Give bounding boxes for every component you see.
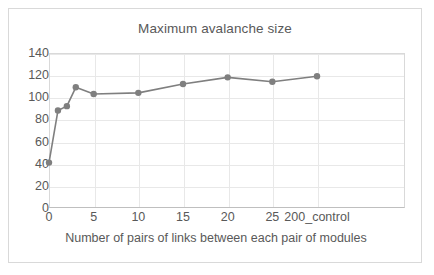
data-point-marker xyxy=(269,79,275,85)
y-axis-tick-label: 40 xyxy=(13,157,49,171)
x-axis-tick-label: 15 xyxy=(176,210,190,224)
y-axis-tick-label: 20 xyxy=(13,179,49,193)
x-axis-tick-label: 20 xyxy=(221,210,235,224)
data-point-marker xyxy=(180,81,186,87)
x-axis-tick-label: 5 xyxy=(90,210,97,224)
data-point-marker xyxy=(55,107,61,113)
series-line-chart xyxy=(49,53,405,208)
y-axis-tick-label: 60 xyxy=(13,135,49,149)
x-axis-tick-label: 10 xyxy=(131,210,145,224)
x-axis-tick-label: 0 xyxy=(46,210,53,224)
data-point-marker xyxy=(73,84,79,90)
data-point-marker xyxy=(64,103,70,109)
y-axis-tick-label: 0 xyxy=(13,201,49,215)
y-axis-tick-label: 100 xyxy=(13,90,49,104)
y-axis-tick-label: 80 xyxy=(13,112,49,126)
y-axis-tick-labels: 020406080100120140 xyxy=(9,53,49,208)
data-point-marker xyxy=(90,91,96,97)
data-point-marker xyxy=(46,159,52,165)
x-axis-tick-labels: 0510152025200_control xyxy=(49,210,405,228)
data-point-marker xyxy=(314,73,320,79)
data-point-marker xyxy=(135,90,141,96)
y-axis-tick-label: 120 xyxy=(13,68,49,82)
x-axis-tick-label: 25 xyxy=(265,210,279,224)
y-axis-tick-label: 140 xyxy=(13,46,49,60)
chart-frame: Maximum avalanche size 02040608010012014… xyxy=(8,8,422,263)
data-point-marker xyxy=(224,74,230,80)
chart-title: Maximum avalanche size xyxy=(9,21,421,36)
x-axis-label: Number of pairs of links between each pa… xyxy=(9,231,423,245)
x-axis-tick-label: 200_control xyxy=(284,210,349,224)
series-line xyxy=(49,76,317,162)
